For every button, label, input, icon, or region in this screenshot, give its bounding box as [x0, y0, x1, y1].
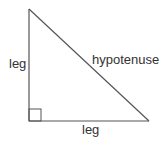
bottom-leg-label: leg [82, 122, 99, 137]
right-triangle-diagram: leg hypotenuse leg [0, 0, 162, 145]
left-leg-label: leg [9, 56, 26, 71]
hypotenuse-label: hypotenuse [92, 52, 159, 67]
right-angle-marker [29, 109, 41, 121]
